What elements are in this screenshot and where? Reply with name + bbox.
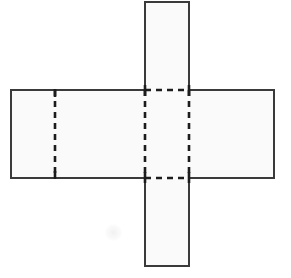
face-bottom-flap bbox=[145, 178, 189, 266]
face-left-end bbox=[11, 90, 55, 178]
face-top-flap bbox=[145, 2, 189, 90]
figure-canvas bbox=[0, 0, 291, 278]
net-face-fills bbox=[11, 2, 274, 266]
face-left-middle bbox=[55, 90, 145, 178]
face-center bbox=[145, 90, 189, 178]
geometric-net-diagram bbox=[0, 0, 291, 278]
face-right bbox=[189, 90, 274, 178]
